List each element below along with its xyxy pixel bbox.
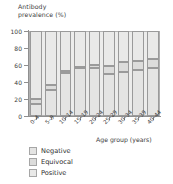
bar-outline xyxy=(132,31,144,116)
bar-outline xyxy=(118,31,130,116)
bar-outline xyxy=(60,31,72,116)
legend-label: Negative xyxy=(41,147,71,155)
bar-series-layer xyxy=(0,0,173,184)
bar-outline xyxy=(89,31,101,116)
stacked-bar xyxy=(118,31,130,116)
legend-swatch xyxy=(29,147,37,155)
bar-outline xyxy=(147,31,159,116)
stacked-bar xyxy=(30,31,42,116)
stacked-bar xyxy=(103,31,115,116)
bar-outline xyxy=(45,31,57,116)
chart-legend: NegativeEquivocalPositive xyxy=(29,146,73,178)
legend-label: Positive xyxy=(41,169,66,177)
legend-item: Positive xyxy=(29,168,73,178)
legend-swatch xyxy=(29,169,37,177)
x-axis-title: Age group (years) xyxy=(96,136,152,143)
bar-outline xyxy=(74,31,86,116)
stacked-bar xyxy=(147,31,159,116)
bar-outline xyxy=(30,31,42,116)
stacked-bar xyxy=(89,31,101,116)
legend-label: Equivocal xyxy=(41,158,73,166)
stacked-bar xyxy=(74,31,86,116)
stacked-bar xyxy=(60,31,72,116)
legend-swatch xyxy=(29,158,37,166)
legend-item: Equivocal xyxy=(29,157,73,167)
stacked-bar xyxy=(132,31,144,116)
bar-outline xyxy=(103,31,115,116)
antibody-prevalence-chart: Antibody prevalence (%) 020406080100 0–4… xyxy=(0,0,173,184)
legend-item: Negative xyxy=(29,146,73,156)
stacked-bar xyxy=(45,31,57,116)
